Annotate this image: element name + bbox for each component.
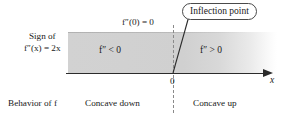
band-top-edge [68,32,248,33]
origin-tick-label: 0 [170,76,175,87]
behavior-of-f-label: Behavior of f [8,98,57,109]
inflection-point-sign-chart: x Sign of f″(x) = 2x f″(0) = 0 f″ < 0 f″… [0,0,289,117]
second-derivative-at-zero-label: f″(0) = 0 [122,17,154,28]
region-label-positive: f″ > 0 [200,45,222,56]
origin-dashed-divider [173,25,174,113]
sign-of-line-1: Sign of [29,31,56,41]
behavior-concave-down-label: Concave down [85,98,140,109]
sign-of-second-derivative-label: Sign of f″(x) = 2x [24,31,61,54]
x-axis-line [66,73,266,74]
behavior-concave-up-label: Concave up [193,98,237,109]
sign-of-line-2: f″(x) = 2x [24,43,61,54]
inflection-point-callout: Inflection point [182,3,257,20]
x-axis-label: x [270,75,274,86]
region-label-negative: f″ < 0 [99,45,121,56]
